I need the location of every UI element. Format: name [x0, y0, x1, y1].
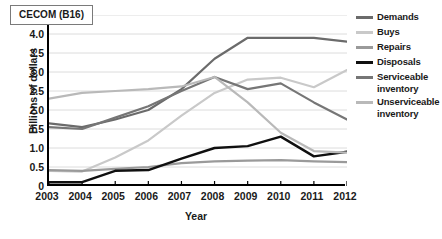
- y-tick-label: 1.0: [14, 142, 44, 154]
- legend-line-swatch-icon: [356, 31, 373, 34]
- line-chart: Billions of dollars 4.54.03.53.02.52.01.…: [0, 0, 442, 239]
- y-tick-label: 2.0: [14, 104, 44, 116]
- y-axis-tick-labels: 4.54.03.53.02.52.01.51.00.50: [14, 15, 44, 186]
- legend-line-swatch-icon: [356, 76, 373, 79]
- plot-area: [47, 15, 345, 186]
- legend-line-swatch-icon: [356, 101, 373, 104]
- series-line: [49, 70, 347, 171]
- y-tick-label: 1.5: [14, 123, 44, 135]
- x-tick-label: 2012: [325, 190, 365, 202]
- legend-line-swatch-icon: [356, 61, 373, 64]
- legend-item[interactable]: Serviceable inventory: [356, 71, 442, 94]
- y-tick-label: 0.5: [14, 161, 44, 173]
- y-tick-label: 4.0: [14, 28, 44, 40]
- legend-line-swatch-icon: [356, 16, 373, 19]
- x-axis-tick-labels: 2003200420052006200720082009201020112012: [47, 190, 345, 206]
- panel-label: CECOM (B16): [10, 5, 93, 25]
- chart-legend: DemandsBuysRepairsDisposalsServiceable i…: [356, 11, 442, 121]
- plot-series-svg: [49, 15, 347, 186]
- legend-item[interactable]: Repairs: [356, 41, 442, 54]
- legend-item[interactable]: Buys: [356, 26, 442, 39]
- legend-line-swatch-icon: [356, 46, 373, 49]
- series-line: [49, 77, 347, 153]
- x-axis-title: Year: [47, 210, 345, 222]
- legend-label: Repairs: [377, 41, 442, 53]
- y-tick-label: 2.5: [14, 85, 44, 97]
- legend-label: Buys: [377, 26, 442, 38]
- legend-item[interactable]: Demands: [356, 11, 442, 24]
- y-tick-label: 3.0: [14, 66, 44, 78]
- legend-label: Demands: [377, 11, 442, 23]
- legend-label: Disposals: [377, 56, 442, 68]
- legend-label: Unserviceable inventory: [377, 96, 442, 119]
- y-tick-label: 3.5: [14, 47, 44, 59]
- legend-label: Serviceable inventory: [377, 71, 442, 94]
- legend-item[interactable]: Unserviceable inventory: [356, 96, 442, 119]
- legend-item[interactable]: Disposals: [356, 56, 442, 69]
